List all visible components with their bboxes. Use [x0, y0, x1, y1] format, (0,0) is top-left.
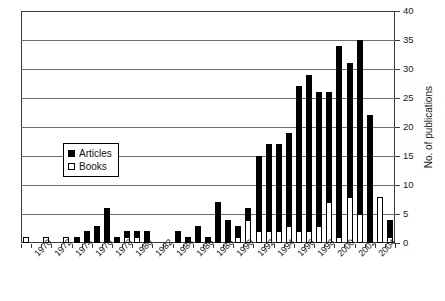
y-axis-tick: [395, 69, 400, 70]
y-axis-tick: [395, 40, 400, 41]
bar-segment-articles: [94, 226, 100, 243]
publications-bar-chart: 1970197219741976197819801982198419861988…: [0, 0, 445, 301]
y-axis-tick-label: 15: [403, 151, 414, 161]
bar-segment-articles: [175, 231, 181, 243]
bar-group: [63, 11, 69, 243]
bar-segment-books: [296, 231, 302, 243]
bar-segment-books: [377, 197, 383, 243]
bar-group: [104, 11, 110, 243]
y-axis-tick: [395, 185, 400, 186]
bar-group: [23, 11, 29, 243]
y-axis-tick: [395, 156, 400, 157]
bar-group: [336, 11, 342, 243]
bar-group: [256, 11, 262, 243]
bar-group: [114, 11, 120, 243]
bar-segment-books: [23, 237, 29, 243]
y-axis-tick-label: 0: [403, 238, 408, 248]
bar-group: [266, 11, 272, 243]
bar-segment-books: [357, 214, 363, 243]
bar-group: [134, 11, 140, 243]
bar-group: [357, 11, 363, 243]
bar-group: [215, 11, 221, 243]
y-axis-tick-label: 30: [403, 64, 414, 74]
y-axis-tick: [395, 11, 400, 12]
y-axis-tick-label: 35: [403, 35, 414, 45]
y-axis-tick: [395, 98, 400, 99]
bars-layer: [21, 11, 395, 243]
bar-group: [245, 11, 251, 243]
bar-segment-articles: [336, 46, 342, 237]
bar-segment-articles: [195, 226, 201, 243]
legend-label-books: Books: [79, 162, 107, 172]
bar-group: [94, 11, 100, 243]
bar-segment-books: [276, 231, 282, 243]
bar-segment-articles: [114, 237, 120, 243]
bar-segment-articles: [306, 75, 312, 232]
bar-segment-books: [134, 237, 140, 243]
bar-segment-articles: [286, 133, 292, 226]
y-axis-tick-label: 40: [403, 6, 414, 16]
bar-segment-books: [256, 231, 262, 243]
bar-group: [225, 11, 231, 243]
bar-group: [296, 11, 302, 243]
bar-group: [124, 11, 130, 243]
bar-group: [347, 11, 353, 243]
x-axis-tick: [31, 244, 32, 248]
bar-segment-articles: [245, 208, 251, 220]
bar-segment-articles: [215, 202, 221, 243]
bar-group: [185, 11, 191, 243]
bar-segment-books: [347, 197, 353, 243]
bar-segment-articles: [357, 40, 363, 214]
y-axis-tick-label: 5: [403, 209, 408, 219]
bar-segment-books: [336, 237, 342, 243]
bar-group: [377, 11, 383, 243]
bar-group: [235, 11, 241, 243]
bar-group: [367, 11, 373, 243]
bar-segment-articles: [276, 144, 282, 231]
bar-group: [326, 11, 332, 243]
bar-segment-books: [316, 226, 322, 243]
bar-group: [175, 11, 181, 243]
x-axis-tick: [21, 244, 22, 248]
y-axis-tick: [395, 127, 400, 128]
bar-group: [195, 11, 201, 243]
y-axis-tick-label: 10: [403, 180, 414, 190]
chart-legend: Articles Books: [63, 143, 119, 177]
bar-group: [286, 11, 292, 243]
bar-segment-articles: [235, 226, 241, 238]
bar-segment-articles: [326, 92, 332, 202]
bar-segment-articles: [387, 220, 393, 237]
bar-group: [43, 11, 49, 243]
y-axis-tick: [395, 214, 400, 215]
y-axis-tick-label: 20: [403, 122, 414, 132]
legend-swatch-books-icon: [68, 163, 75, 170]
bar-group: [306, 11, 312, 243]
bar-group: [74, 11, 80, 243]
bar-group: [387, 11, 393, 243]
bar-segment-articles: [296, 86, 302, 231]
bar-segment-articles: [367, 115, 373, 243]
bar-segment-articles: [266, 144, 272, 231]
y-axis-title: No. of publications: [424, 86, 434, 168]
bar-segment-articles: [347, 63, 353, 196]
legend-swatch-articles-icon: [68, 150, 75, 157]
legend-item-articles: Articles: [68, 147, 112, 160]
bar-group: [205, 11, 211, 243]
bar-segment-articles: [74, 237, 80, 243]
legend-label-articles: Articles: [79, 149, 112, 159]
bar-group: [276, 11, 282, 243]
legend-item-books: Books: [68, 160, 112, 173]
bar-group: [316, 11, 322, 243]
bar-group: [84, 11, 90, 243]
bar-segment-books: [235, 237, 241, 243]
y-axis-tick-label: 25: [403, 93, 414, 103]
bar-segment-articles: [316, 92, 322, 225]
bar-segment-articles: [256, 156, 262, 231]
bar-group: [144, 11, 150, 243]
